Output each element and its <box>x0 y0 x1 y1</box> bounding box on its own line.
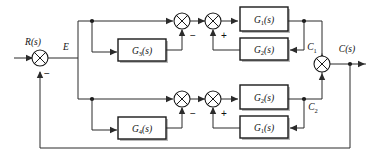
output-signal-label: C(s) <box>339 44 355 55</box>
lower-second-summer-sign: + <box>221 108 227 119</box>
svg-text:G2(s): G2(s) <box>254 93 274 105</box>
upper-first-summer <box>174 13 190 29</box>
block-label-lower-inner-arg: (s) <box>142 124 152 135</box>
branch1-output-label: C1 <box>307 42 317 54</box>
upper-second-summer <box>205 13 221 29</box>
output-summer <box>314 56 330 72</box>
block-lower-outer-feedback: G1(s) <box>240 116 290 140</box>
block-upper-outer-feedback: G2(s) <box>240 38 290 62</box>
lower-first-summer <box>174 91 190 107</box>
error-signal-label: E <box>62 42 69 52</box>
lower-first-summer-sign: − <box>190 108 196 119</box>
svg-text:G1(s): G1(s) <box>254 15 274 27</box>
branch2-output-label: C2 <box>308 102 318 114</box>
block-label-upper-outer-arg: (s) <box>264 45 274 56</box>
block-upper-forward: G1(s) <box>240 7 290 33</box>
svg-text:G2(s): G2(s) <box>254 45 274 57</box>
svg-text:G3(s): G3(s) <box>132 46 152 58</box>
input-signal-label: R(s) <box>24 37 41 48</box>
block-label-lower-forward-arg: (s) <box>264 93 274 104</box>
block-label-upper-forward-arg: (s) <box>264 15 274 26</box>
block-label-lower-outer-arg: (s) <box>264 123 274 134</box>
svg-text:G4(s): G4(s) <box>132 124 152 136</box>
block-label-upper-inner-arg: (s) <box>142 46 152 57</box>
input-summer-sign: − <box>44 68 50 79</box>
block-lower-inner-feedback: G4(s) <box>118 117 168 141</box>
lower-second-summer <box>205 91 221 107</box>
input-summer <box>14 50 48 66</box>
upper-second-summer-sign: + <box>221 30 227 41</box>
svg-text:G1(s): G1(s) <box>254 123 274 135</box>
upper-first-summer-sign: − <box>190 30 196 41</box>
block-lower-forward: G2(s) <box>240 85 290 111</box>
block-upper-inner-feedback: G3(s) <box>118 39 168 63</box>
block-diagram-canvas: R(s) − E G3(s) − <box>0 0 376 158</box>
